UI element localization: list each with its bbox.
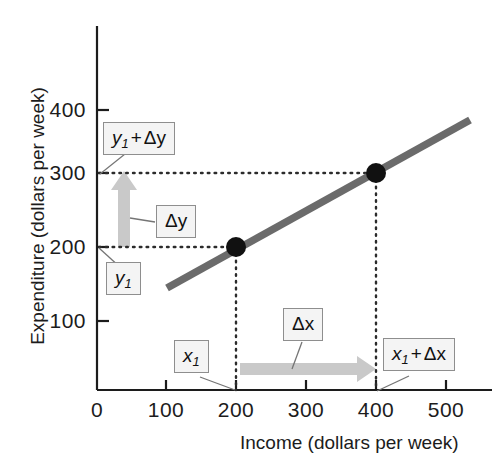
x-tick-label-0: 0 bbox=[91, 398, 103, 422]
callout-y1-plus-delta-y: y1+Δy bbox=[103, 122, 175, 155]
expenditure-income-chart: 400 300 200 100 0 100 200 300 400 500 Ex… bbox=[0, 0, 503, 463]
delta-y-arrow bbox=[111, 171, 137, 247]
callout-delta-y: Δy bbox=[156, 205, 196, 238]
expenditure-line bbox=[167, 120, 470, 288]
callout-y1-plus-dy-base: y bbox=[112, 127, 122, 148]
callout-x1-plus-delta-x: x1+Δx bbox=[383, 338, 455, 371]
callout-x1-plus-dx-op: + bbox=[409, 343, 424, 364]
callout-delta-y-text: Δy bbox=[165, 210, 187, 231]
callout-y1-sub: 1 bbox=[125, 276, 132, 291]
callout-y1-plus-dy-delta: Δy bbox=[144, 127, 166, 148]
y-axis-title: Expenditure (dollars per week) bbox=[27, 86, 49, 346]
callout-delta-x-text: Δx bbox=[292, 313, 314, 334]
callout-x1-base: x bbox=[183, 345, 193, 366]
callout-delta-x: Δx bbox=[283, 308, 323, 341]
callout-y1-base: y bbox=[115, 267, 125, 288]
callout-y1-plus-dy-sub: 1 bbox=[122, 136, 129, 151]
delta-x-arrow bbox=[240, 356, 376, 382]
callout-x1-plus-dx-delta: Δx bbox=[424, 343, 446, 364]
x-tick-label-500: 500 bbox=[428, 398, 465, 422]
x-tick-label-300: 300 bbox=[288, 398, 325, 422]
chart-canvas bbox=[0, 0, 503, 463]
callout-x1-plus-dx-sub: 1 bbox=[402, 352, 409, 367]
leader-line-x1 bbox=[200, 377, 235, 390]
callout-x1: x1 bbox=[174, 340, 209, 373]
x-tick-label-200: 200 bbox=[218, 398, 255, 422]
x-axis-title: Income (dollars per week) bbox=[240, 432, 459, 454]
callout-y1: y1 bbox=[106, 262, 141, 295]
callout-x1-sub: 1 bbox=[193, 354, 200, 369]
callout-x1-plus-dx-base: x bbox=[392, 343, 402, 364]
data-point-1 bbox=[226, 237, 246, 257]
callout-y1-plus-dy-op: + bbox=[129, 127, 144, 148]
x-tick-label-100: 100 bbox=[148, 398, 185, 422]
leader-line-x1-plus-dx bbox=[377, 376, 409, 391]
x-tick-label-400: 400 bbox=[358, 398, 395, 422]
leader-line-delta-y bbox=[130, 218, 155, 222]
data-point-2 bbox=[366, 163, 386, 183]
